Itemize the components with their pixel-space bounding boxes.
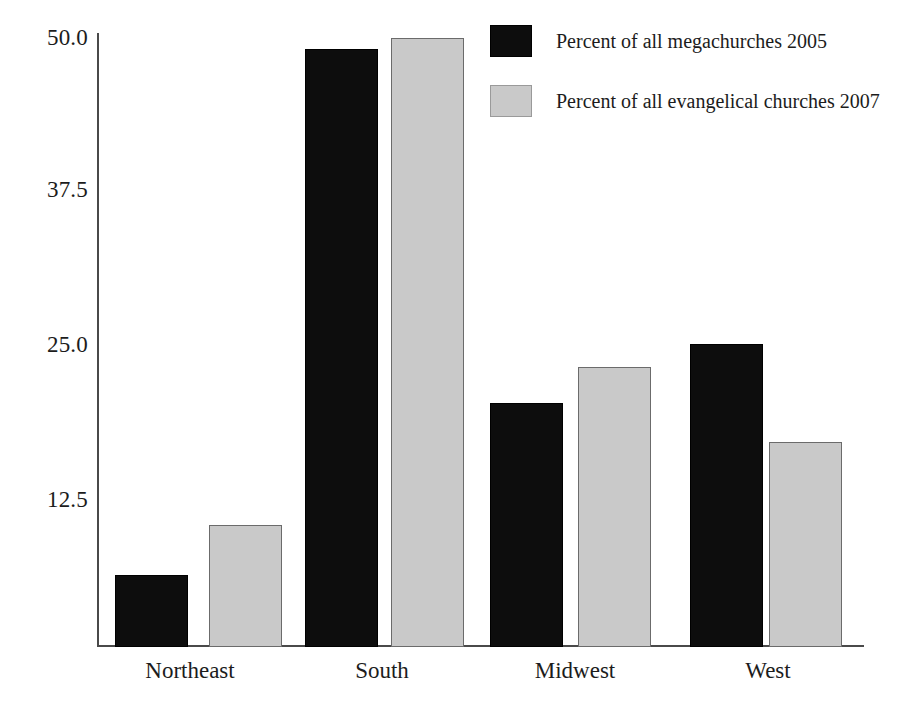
legend-item-megachurches-2005: Percent of all megachurches 2005 (490, 24, 880, 58)
bar-south-evangelical-2007 (391, 38, 464, 647)
bar-chart: 50.0 37.5 25.0 12.5 Northeast South Midw… (0, 0, 901, 707)
legend-label-series-1: Percent of all evangelical churches 2007 (556, 90, 880, 113)
legend-label-series-0: Percent of all megachurches 2005 (556, 30, 827, 53)
y-tick-label-25: 25.0 (47, 332, 88, 358)
x-axis-label-midwest: Midwest (535, 658, 616, 684)
x-axis-label-west: West (745, 658, 790, 684)
bar-midwest-evangelical-2007 (578, 367, 651, 647)
x-axis-label-northeast: Northeast (145, 658, 234, 684)
legend-swatch-icon-series-1 (490, 85, 532, 117)
bar-midwest-megachurches-2005 (490, 403, 563, 647)
y-axis-tick-labels: 50.0 37.5 25.0 12.5 (0, 0, 88, 707)
bar-northeast-megachurches-2005 (115, 575, 188, 648)
x-axis-label-south: South (355, 658, 409, 684)
bar-group-south (305, 33, 473, 647)
chart-legend: Percent of all megachurches 2005 Percent… (490, 24, 880, 144)
y-tick-label-12-5: 12.5 (47, 487, 88, 513)
bar-south-megachurches-2005 (305, 49, 378, 647)
bar-west-megachurches-2005 (690, 344, 763, 647)
bar-west-evangelical-2007 (769, 442, 842, 648)
bar-group-northeast (115, 33, 283, 647)
y-tick-label-37-5: 37.5 (47, 177, 88, 203)
legend-item-evangelical-2007: Percent of all evangelical churches 2007 (490, 84, 880, 118)
bar-northeast-evangelical-2007 (209, 525, 282, 647)
y-tick-label-50: 50.0 (47, 25, 88, 51)
legend-swatch-icon-series-0 (490, 25, 532, 57)
